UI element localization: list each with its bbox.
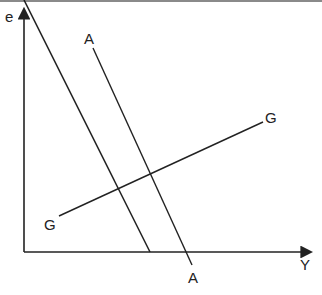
gg-label-right: G [265,109,277,126]
x-axis-label: Y [300,256,310,273]
aa-curve [93,48,192,265]
gg-label-left: G [44,216,56,233]
aa-gg-diagram: e Y A A G G [0,0,322,295]
aa-label-top: A [84,30,94,47]
gg-curve [59,122,263,216]
y-axis-label: e [5,8,13,25]
aa-label-bottom: A [188,269,198,286]
